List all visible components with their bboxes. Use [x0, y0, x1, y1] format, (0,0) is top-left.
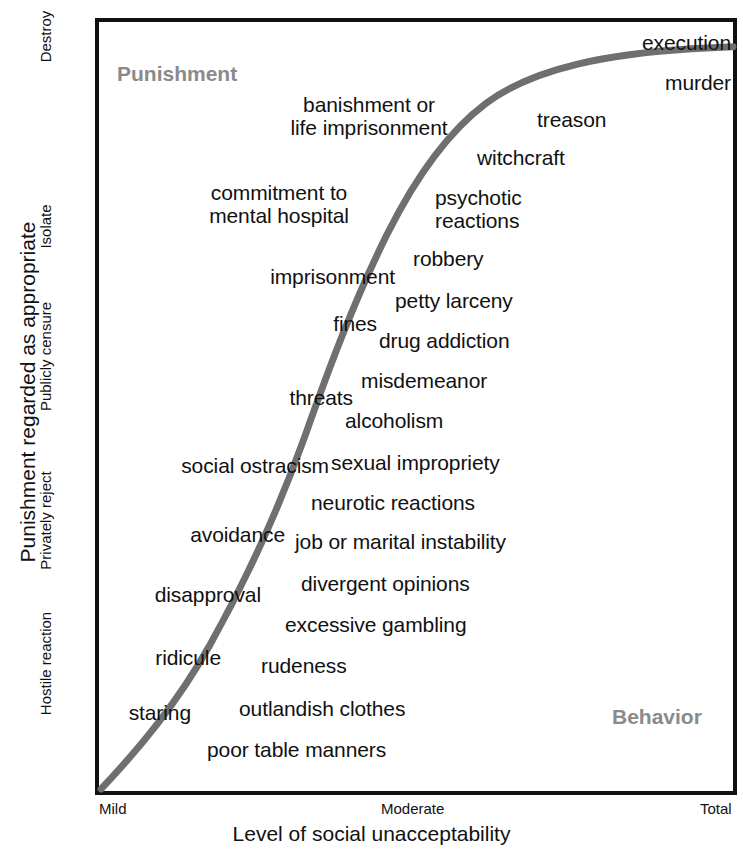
behavior-item-neurotic-reactions: neurotic reactions — [311, 492, 475, 515]
punishment-item-commitment-line2: mental hospital — [129, 205, 429, 228]
y-tick-isolate: Isolate — [37, 177, 54, 277]
y-tick-hostile-reaction: Hostile reaction — [37, 589, 54, 739]
behavior-item-treason: treason — [537, 109, 606, 132]
punishment-item-staring: staring — [99, 702, 191, 725]
behavior-item-robbery: robbery — [413, 248, 484, 271]
chart-figure: Punishment regarded as appropriate Destr… — [0, 0, 743, 849]
y-tick-privately-reject: Privately reject — [37, 451, 54, 591]
behavior-item-rudeness: rudeness — [261, 655, 347, 678]
behavior-item-petty-larceny: petty larceny — [395, 290, 513, 313]
region-caption-behavior: Behavior — [612, 705, 702, 729]
punishment-item-commitment-line1: commitment to — [129, 182, 429, 205]
y-tick-destroy: Destroy — [37, 0, 54, 87]
behavior-item-psychotic-line2: reactions — [435, 210, 519, 233]
behavior-item-psychotic-line1: psychotic — [435, 187, 522, 210]
behavior-item-excessive-gambling: excessive gambling — [285, 614, 466, 637]
behavior-item-sexual-impropriety: sexual impropriety — [331, 452, 500, 475]
behavior-item-execution: execution — [399, 32, 731, 55]
y-tick-publicly-censure: Publicly censure — [37, 282, 54, 432]
behavior-item-alcoholism: alcoholism — [345, 410, 443, 433]
behavior-item-witchcraft: witchcraft — [477, 147, 565, 170]
behavior-item-outlandish-clothes: outlandish clothes — [239, 698, 405, 721]
punishment-item-banishment-line1: banishment or — [219, 94, 519, 117]
region-caption-punishment: Punishment — [117, 62, 237, 86]
behavior-item-job-or-marital-instability: job or marital instability — [295, 531, 506, 554]
punishment-item-social-ostracism: social ostracism — [99, 455, 329, 478]
behavior-item-divergent-opinions: divergent opinions — [301, 573, 470, 596]
x-tick-mild: Mild — [99, 800, 127, 817]
plot-area: Punishment Behavior banishment or life i… — [95, 18, 737, 795]
punishment-item-fines: fines — [99, 313, 377, 336]
x-axis-title: Level of social unacceptability — [0, 822, 743, 846]
behavior-item-poor-table-manners: poor table manners — [207, 739, 386, 762]
x-tick-total: Total — [700, 800, 732, 817]
punishment-item-threats: threats — [99, 387, 353, 410]
punishment-item-ridicule: ridicule — [99, 647, 221, 670]
behavior-item-drug-addiction: drug addiction — [379, 330, 510, 353]
behavior-item-misdemeanor: misdemeanor — [361, 370, 487, 393]
x-tick-moderate: Moderate — [381, 800, 444, 817]
behavior-item-murder: murder — [399, 72, 731, 95]
punishment-item-banishment-line2: life imprisonment — [219, 117, 519, 140]
punishment-item-imprisonment: imprisonment — [99, 266, 395, 289]
punishment-item-avoidance: avoidance — [99, 524, 285, 547]
punishment-item-disapproval: disapproval — [99, 584, 261, 607]
